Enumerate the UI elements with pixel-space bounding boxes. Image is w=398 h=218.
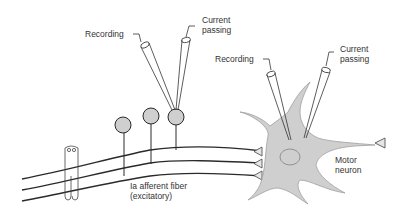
- ganglion-cells: [115, 108, 184, 176]
- fiber-label-1: Ia afferent fiber: [130, 181, 187, 191]
- right-current-label-1: Current: [340, 44, 368, 54]
- left-current-label-2: passing: [202, 25, 231, 35]
- right-current-label-2: passing: [340, 54, 369, 64]
- fiber-label-2: (excitatory): [130, 191, 172, 201]
- left-current-label-1: Current: [202, 15, 230, 25]
- motor-neuron-label-2: neuron: [335, 165, 361, 175]
- fiber-terminals: [254, 147, 262, 180]
- motor-neuron: [240, 82, 385, 204]
- left-electrodes: [133, 26, 195, 110]
- diagram-svg: [0, 0, 398, 218]
- right-recording-label: Recording: [215, 54, 254, 64]
- left-recording-label: Recording: [85, 29, 124, 39]
- neuron-recording-diagram: Recording Current passing Recording Curr…: [0, 0, 398, 218]
- motor-neuron-label-1: Motor: [335, 155, 357, 165]
